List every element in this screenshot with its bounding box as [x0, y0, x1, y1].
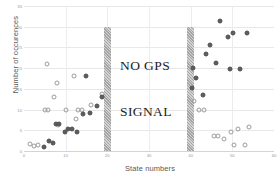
data-point	[57, 122, 62, 127]
data-point	[238, 66, 243, 71]
data-point	[72, 74, 77, 79]
data-point	[42, 145, 47, 150]
data-point	[247, 124, 252, 129]
data-point	[232, 143, 237, 148]
y-tick-label: 25	[17, 45, 22, 50]
x-tick-label: 30	[147, 153, 152, 158]
x-tick-label: 40	[188, 153, 193, 158]
data-point	[36, 142, 41, 147]
x-tick-label: 20	[105, 153, 110, 158]
data-point	[208, 42, 213, 47]
signal-annotation: SIGNAL	[120, 104, 172, 120]
data-point	[64, 107, 69, 112]
data-point	[221, 136, 226, 141]
no-gps-band-left	[104, 27, 111, 151]
data-point	[244, 30, 249, 35]
data-point	[87, 110, 92, 115]
data-point	[50, 141, 55, 146]
x-tick-label: 10	[63, 153, 68, 158]
data-point	[203, 52, 208, 57]
data-point	[213, 60, 218, 65]
y-tick-label: 20	[17, 66, 22, 71]
y-axis-title: Number of occurences	[11, 0, 20, 115]
x-tick-label: 0	[23, 153, 25, 158]
y-tick-label: 0	[20, 149, 22, 154]
data-point	[84, 73, 89, 78]
x-axis-title: State numbers	[24, 164, 276, 173]
data-point	[228, 129, 233, 134]
data-point	[227, 66, 232, 71]
y-tick-label: 10	[17, 107, 22, 112]
x-gridline	[149, 6, 150, 151]
scatter-chart: Number of occurences State numbers 05101…	[0, 0, 280, 180]
data-point	[89, 102, 94, 107]
data-point	[243, 143, 248, 148]
data-point	[46, 107, 51, 112]
data-point	[191, 66, 196, 71]
data-point	[202, 107, 207, 112]
data-point	[100, 95, 105, 100]
x-tick-label: 60	[272, 153, 277, 158]
data-point	[200, 92, 205, 97]
data-point	[189, 86, 194, 91]
data-point	[216, 134, 221, 139]
no-gps-annotation: NO GPS	[120, 58, 170, 74]
data-point	[81, 111, 86, 116]
data-point	[194, 76, 199, 81]
data-point	[74, 130, 79, 135]
data-point	[231, 30, 236, 35]
data-point	[218, 18, 223, 23]
data-point	[236, 126, 241, 131]
plot-area: 051015202530350102030405060	[24, 6, 274, 151]
data-point	[192, 99, 197, 104]
y-tick-label: 5	[20, 128, 22, 133]
data-point	[73, 116, 78, 121]
data-point	[55, 80, 60, 85]
y-tick-label: 30	[17, 24, 22, 29]
data-point	[45, 62, 50, 67]
y-tick-label: 15	[17, 86, 22, 91]
data-point	[52, 95, 57, 100]
data-point	[225, 35, 230, 40]
y-tick-label: 35	[17, 4, 22, 9]
data-point	[94, 104, 99, 109]
x-tick-label: 50	[230, 153, 235, 158]
